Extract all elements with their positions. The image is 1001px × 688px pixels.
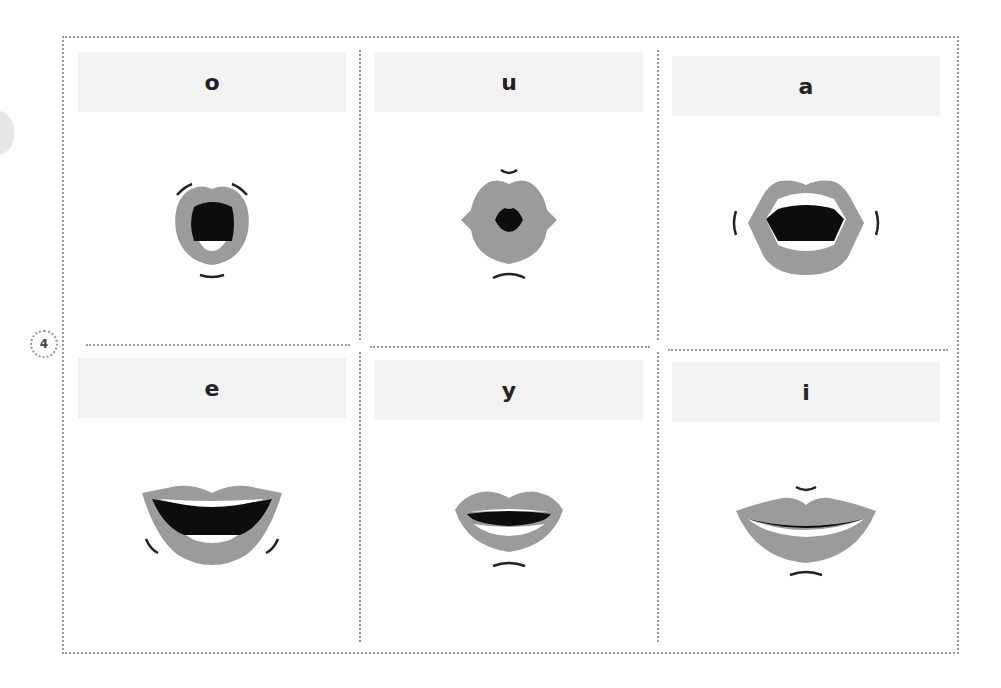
grid-divider-v2 bbox=[657, 50, 659, 340]
mouth-o-icon bbox=[78, 112, 346, 334]
mouth-i-icon bbox=[672, 422, 940, 644]
mouth-u-icon bbox=[375, 112, 643, 334]
grid-divider-h2 bbox=[370, 346, 650, 348]
vowel-label: e bbox=[78, 358, 346, 418]
side-tab bbox=[0, 110, 14, 156]
vowel-label: y bbox=[375, 360, 643, 420]
vowel-card-o: o bbox=[78, 52, 346, 334]
vowel-label: u bbox=[375, 52, 643, 112]
grid-divider-v3 bbox=[359, 352, 361, 642]
vowel-card-a: a bbox=[672, 56, 940, 338]
mouth-e-icon bbox=[78, 418, 346, 640]
vowel-card-y: y bbox=[375, 360, 643, 642]
vowel-card-u: u bbox=[375, 52, 643, 334]
mouth-y-icon bbox=[375, 420, 643, 642]
page-number-badge: 4 bbox=[30, 330, 58, 358]
grid-divider-h1 bbox=[86, 344, 350, 346]
vowel-label: a bbox=[672, 56, 940, 116]
vowel-card-i: i bbox=[672, 362, 940, 644]
vowel-label: i bbox=[672, 362, 940, 422]
vowel-label: o bbox=[78, 52, 346, 112]
grid-divider-v1 bbox=[359, 50, 361, 340]
mouth-a-icon bbox=[672, 116, 940, 338]
grid-divider-h3 bbox=[668, 349, 948, 351]
vowel-card-e: e bbox=[78, 358, 346, 640]
grid-divider-v4 bbox=[657, 352, 659, 642]
